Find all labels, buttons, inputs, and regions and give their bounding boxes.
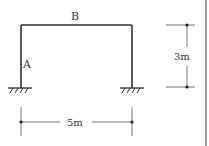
height-dimension-label: 3m: [174, 51, 190, 62]
portal-frame-diagram: B A 3m 5m: [0, 0, 209, 146]
right-fixed-support-icon: [120, 88, 144, 93]
span-dimension-label: 5m: [67, 117, 83, 128]
label-a: A: [22, 58, 32, 71]
label-b: B: [71, 10, 79, 23]
frame: [21, 25, 132, 88]
left-fixed-support-icon: [8, 88, 32, 93]
